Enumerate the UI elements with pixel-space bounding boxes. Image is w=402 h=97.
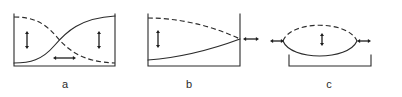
panel-label-b: b [186, 78, 192, 90]
arrow-head-left-icon [53, 56, 56, 60]
arrow-head-up-icon [97, 31, 101, 34]
arrow-head-down-icon [97, 46, 101, 49]
arrow-a-right-gap-arrow [97, 31, 101, 49]
panel-a [14, 14, 115, 66]
arrow-head-down-icon [156, 45, 160, 48]
arrow-head-left-icon [357, 39, 360, 43]
panel-c [270, 25, 371, 66]
arrow-c-center-gap-arrow [320, 33, 324, 46]
arrow-head-up-icon [320, 33, 324, 36]
panel-a-curve-rising-solid-sigmoid [14, 16, 115, 63]
arrow-head-left-icon [243, 37, 246, 41]
panel-b-curve-rising-solid-curve [148, 39, 240, 60]
arrow-b-left-gap-arrow [156, 30, 160, 48]
panel-c-curve-lower-solid-arc [283, 41, 357, 56]
arrow-a-left-gap-arrow [25, 31, 29, 49]
panel-labels-group: abc [62, 78, 332, 90]
bottom-bracket [289, 55, 371, 66]
panel-b-curve-falling-dashed-curve [148, 18, 240, 39]
arrow-a-center-gap-arrow [53, 56, 76, 60]
arrow-c-right-outward-arrow [357, 39, 371, 43]
arrow-c-left-outward-arrow [270, 39, 284, 43]
arrow-head-up-icon [25, 31, 29, 34]
arrow-head-left-icon [270, 39, 273, 43]
arrow-head-down-icon [320, 43, 324, 46]
arrow-head-right-icon [368, 39, 371, 43]
panel-label-c: c [326, 78, 332, 90]
arrow-head-right-icon [256, 37, 259, 41]
panel-b [148, 14, 259, 66]
panels-group [14, 14, 371, 66]
arrow-b-right-convergence-arrow [243, 37, 259, 41]
panel-c-curve-upper-dashed-arc [283, 25, 357, 41]
panel-label-a: a [62, 78, 69, 90]
arrow-head-right-icon [73, 56, 76, 60]
arrow-head-up-icon [156, 30, 160, 33]
figure-canvas: abc [0, 0, 402, 97]
panel-c-frame [289, 55, 371, 66]
figure-container: abc [0, 0, 402, 97]
arrow-head-down-icon [25, 46, 29, 49]
panel-a-curve-falling-dashed-sigmoid [14, 17, 115, 63]
